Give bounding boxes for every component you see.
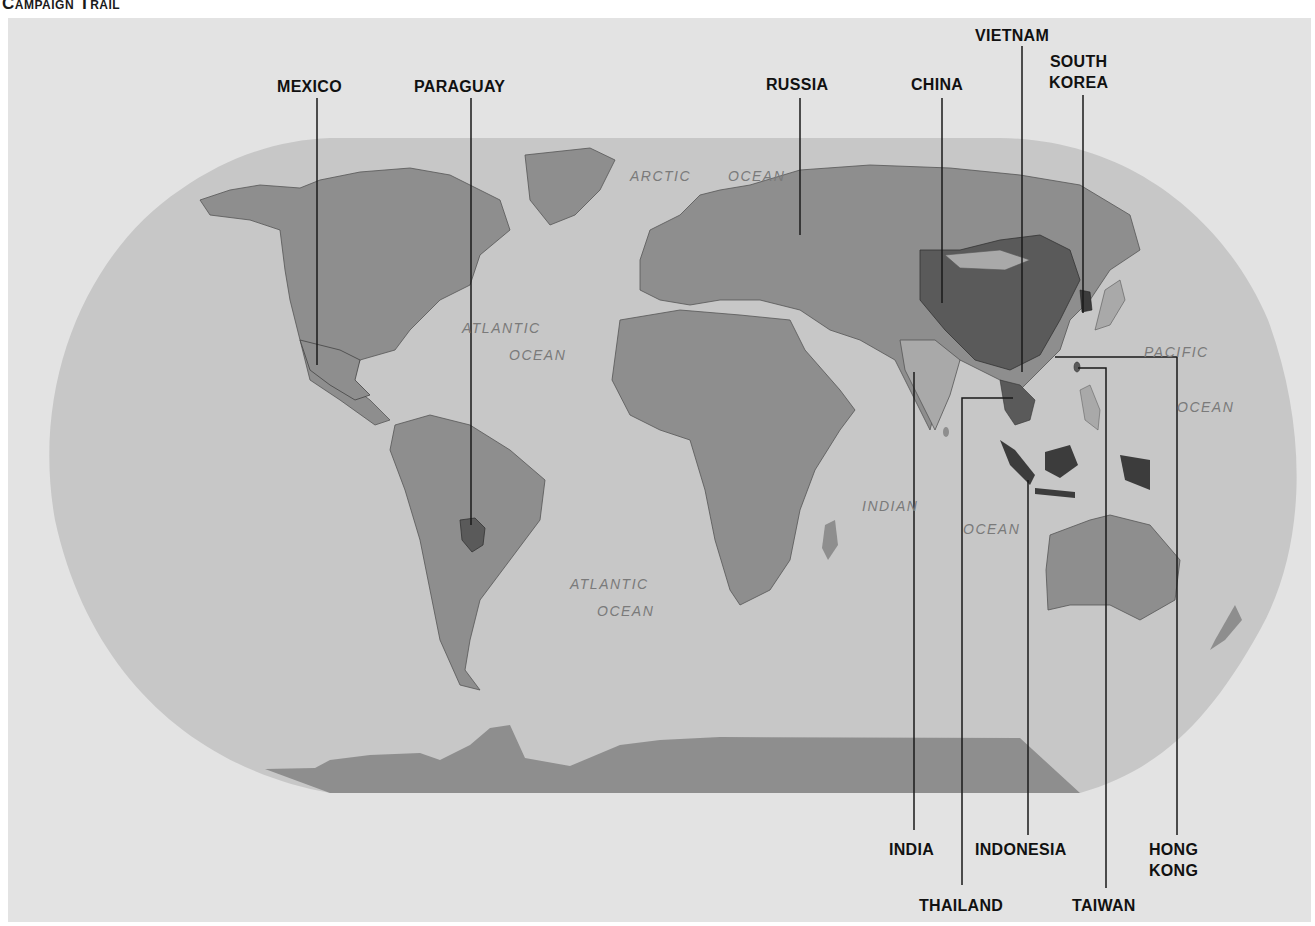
ocean-indian-word1: INDIAN: [862, 498, 918, 514]
label-hong-kong-line2: KONG: [1149, 860, 1198, 881]
taiwan-land: [1074, 362, 1080, 372]
label-mexico: MEXICO: [277, 76, 342, 97]
label-south-korea-line2: KOREA: [1049, 72, 1108, 93]
label-indonesia: INDONESIA: [975, 839, 1067, 860]
label-south-korea: SOUTH KOREA: [1049, 51, 1108, 93]
label-paraguay: PARAGUAY: [414, 76, 505, 97]
label-hong-kong-line1: HONG: [1149, 839, 1198, 860]
ocean-north-atlantic-word2: OCEAN: [509, 347, 566, 363]
label-thailand: THAILAND: [919, 895, 1003, 916]
ocean-south-atlantic-word2: OCEAN: [597, 603, 654, 619]
label-hong-kong: HONG KONG: [1149, 839, 1198, 881]
ocean-pacific-word2: OCEAN: [1177, 399, 1234, 415]
label-vietnam: VIETNAM: [975, 25, 1049, 46]
ocean-arctic-word1: ARCTIC: [630, 168, 691, 184]
ocean-north-atlantic-word1: ATLANTIC: [462, 320, 541, 336]
label-india: INDIA: [889, 839, 934, 860]
ocean-pacific-word1: PACIFIC: [1144, 344, 1209, 360]
ocean-indian-word2: OCEAN: [963, 521, 1020, 537]
sri-lanka-land: [943, 427, 949, 437]
label-taiwan: TAIWAN: [1072, 895, 1136, 916]
label-russia: RUSSIA: [766, 74, 828, 95]
south-korea-land: [1080, 290, 1092, 312]
ocean-arctic-word2: OCEAN: [728, 168, 785, 184]
label-china: CHINA: [911, 74, 963, 95]
label-south-korea-line1: SOUTH: [1049, 51, 1108, 72]
ocean-south-atlantic-word1: ATLANTIC: [570, 576, 649, 592]
world-map: [0, 0, 1315, 926]
